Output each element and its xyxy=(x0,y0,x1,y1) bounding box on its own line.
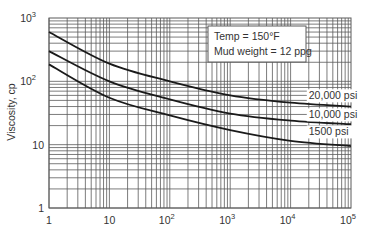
x-tick-label: 105 xyxy=(340,212,356,226)
x-tick-label: 1 xyxy=(46,214,52,226)
series-label: 1500 psi xyxy=(309,125,349,137)
y-tick-label: 10 xyxy=(32,139,44,151)
annotation-box: Temp = 150°FMud weight = 12 ppg xyxy=(208,26,312,62)
viscosity-chart: 20,000 psi10,000 psi1500 psi Temp = 150°… xyxy=(0,0,373,234)
series-labels: 20,000 psi10,000 psi1500 psi xyxy=(307,89,367,138)
x-tick-label: 104 xyxy=(280,212,296,226)
chart-canvas: 20,000 psi10,000 psi1500 psi Temp = 150°… xyxy=(0,0,373,234)
y-axis-label: Viscosity, cp xyxy=(5,83,17,141)
y-tick-label: 102 xyxy=(20,73,36,87)
series-label: 20,000 psi xyxy=(309,89,357,101)
conditions-text: Temp = 150°F xyxy=(214,30,280,42)
y-tick-label: 1 xyxy=(38,202,44,214)
y-tick-label: 103 xyxy=(20,10,36,24)
x-tick-label: 103 xyxy=(219,212,235,226)
series-label: 10,000 psi xyxy=(309,108,357,120)
x-tick-label: 10 xyxy=(104,214,116,226)
conditions-text: Mud weight = 12 ppg xyxy=(214,45,312,57)
x-tick-label: 102 xyxy=(159,212,175,226)
curve-1500-psi xyxy=(49,64,351,146)
